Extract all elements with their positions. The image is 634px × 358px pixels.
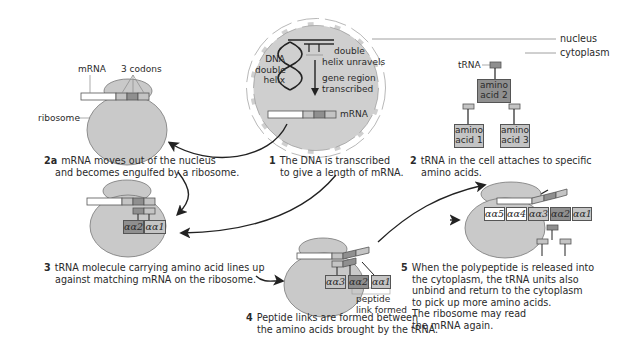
mrna-label-nucleus: mRNA: [340, 109, 368, 120]
amino-chain-step5-aa1: αα1: [572, 207, 592, 221]
amino-acid-1-box: aminoacid 1: [454, 124, 484, 148]
ribosome-3: [87, 180, 166, 257]
amino-chain-step5-aa3: αα3: [528, 207, 549, 221]
step-5-caption: 5When the polypeptide is released into t…: [401, 262, 594, 331]
arrow-2a-to-3: [178, 172, 189, 214]
mrna-strand-nucleus: [268, 111, 336, 118]
amino-chain-step4-aa2: αα2: [348, 275, 369, 289]
amino-chain-step5-aa5: αα5: [484, 207, 505, 221]
arrow-trna-to-ribosome: [182, 175, 336, 233]
amino-chain-step4-aa1: αα1: [371, 275, 391, 289]
nucleus-label: nucleus: [560, 33, 597, 45]
amino-chain-step3-aa1: αα1: [144, 220, 166, 234]
amino-chain-step4-aa3: αα3: [325, 275, 346, 289]
step-2a-caption: 2amRNA moves out of the nucleus and beco…: [44, 155, 239, 178]
amino-chain-step5-aa2: αα2: [550, 207, 571, 221]
amino-acid-3-box: aminoacid 3: [500, 124, 530, 148]
double-helix-unravels-label: double helix unravels: [322, 46, 385, 67]
amino-chain-step5-aa4: αα4: [506, 207, 527, 221]
step-3-caption: 3tRNA molecule carrying amino acid lines…: [44, 262, 264, 285]
ribosome-2a: [78, 75, 167, 165]
step-1-caption: 1The DNA is transcribed to give a length…: [269, 155, 404, 178]
ribosome-label: ribosome: [38, 113, 80, 124]
cytoplasm-label: cytoplasm: [560, 47, 610, 59]
gene-region-transcribed-label: gene region transcribed: [322, 73, 376, 94]
dna-double-helix-label: DNA double helix: [255, 54, 285, 86]
mrna-label-ribosome: mRNA: [78, 64, 106, 75]
amino-chain-step3-aa2: αα2: [123, 220, 144, 234]
three-codons-label: 3 codons: [121, 64, 162, 75]
step-2-caption: 2tRNA in the cell attaches to specific a…: [410, 155, 592, 178]
trna-label: tRNA: [458, 60, 481, 71]
amino-acid-2-box: aminoacid 2: [477, 79, 511, 103]
